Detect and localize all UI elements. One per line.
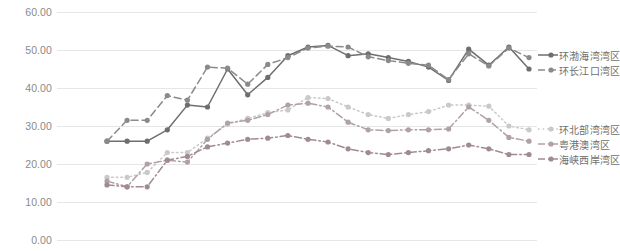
data-point xyxy=(165,158,170,163)
data-point xyxy=(205,104,210,109)
data-point xyxy=(285,55,290,60)
data-point xyxy=(526,55,531,60)
data-point xyxy=(506,152,511,157)
legend-label: 粤港澳湾区 xyxy=(559,137,610,152)
data-point xyxy=(165,93,170,98)
data-point xyxy=(125,175,130,180)
data-point xyxy=(526,127,531,132)
data-point xyxy=(125,139,130,144)
data-point xyxy=(305,101,310,106)
data-point xyxy=(185,98,190,103)
legend-marker-icon xyxy=(537,49,559,61)
data-point xyxy=(245,82,250,87)
data-point xyxy=(125,184,130,189)
data-point xyxy=(165,150,170,155)
legend-label: 环北部湾湾区 xyxy=(559,122,620,137)
data-point xyxy=(225,120,230,125)
legend-item[interactable]: 环渤海湾湾区 xyxy=(537,48,617,62)
data-point xyxy=(346,53,351,58)
y-tick-label: 60.00 xyxy=(25,6,52,18)
series-line xyxy=(107,45,529,141)
legend: 环渤海湾湾区环长江口湾区环北部湾湾区粤港澳湾区海峡西岸湾区 xyxy=(537,0,617,251)
data-point xyxy=(506,135,511,140)
legend-label: 环长江口湾区 xyxy=(559,63,620,78)
data-point xyxy=(426,63,431,68)
data-point xyxy=(165,127,170,132)
legend-item[interactable]: 环北部湾湾区 xyxy=(537,122,617,136)
data-point xyxy=(305,46,310,51)
data-point xyxy=(104,182,109,187)
data-point xyxy=(325,96,330,101)
y-tick-label: 40.00 xyxy=(25,82,52,94)
legend-group: 环渤海湾湾区环长江口湾区 xyxy=(537,48,617,78)
data-point xyxy=(386,58,391,63)
data-point xyxy=(486,146,491,151)
legend-label: 海峡西岸湾区 xyxy=(559,152,620,167)
data-point xyxy=(466,47,471,52)
data-point xyxy=(366,112,371,117)
data-point xyxy=(466,142,471,147)
data-point xyxy=(506,46,511,51)
data-point xyxy=(346,104,351,109)
legend-item[interactable]: 海峡西岸湾区 xyxy=(537,152,617,166)
data-point xyxy=(366,150,371,155)
y-tick-label: 20.00 xyxy=(25,158,52,170)
data-point xyxy=(104,139,109,144)
y-tick-label: 30.00 xyxy=(25,120,52,132)
series-4 xyxy=(104,133,531,190)
legend-marker-icon xyxy=(537,138,559,150)
y-tick-label: 50.00 xyxy=(25,44,52,56)
series-layer xyxy=(57,0,537,251)
data-point xyxy=(305,137,310,142)
data-point xyxy=(145,184,150,189)
data-point xyxy=(506,123,511,128)
data-point xyxy=(285,133,290,138)
y-tick-label: 10.00 xyxy=(25,196,52,208)
data-point xyxy=(486,118,491,123)
data-point xyxy=(526,152,531,157)
data-point xyxy=(446,103,451,108)
data-point xyxy=(205,137,210,142)
data-point xyxy=(185,103,190,108)
data-point xyxy=(265,136,270,141)
data-point xyxy=(406,61,411,66)
data-point xyxy=(466,51,471,56)
series-line xyxy=(107,103,529,187)
data-point xyxy=(225,141,230,146)
data-point xyxy=(446,77,451,82)
data-point xyxy=(145,139,150,144)
data-point xyxy=(305,95,310,100)
data-point xyxy=(426,148,431,153)
data-point xyxy=(406,127,411,132)
data-point xyxy=(205,65,210,70)
data-point xyxy=(426,127,431,132)
data-point xyxy=(245,92,250,97)
legend-item[interactable]: 粤港澳湾区 xyxy=(537,137,617,151)
data-point xyxy=(446,146,451,151)
data-point xyxy=(446,126,451,131)
legend-item[interactable]: 环长江口湾区 xyxy=(537,63,617,77)
data-point xyxy=(325,104,330,109)
data-point xyxy=(386,116,391,121)
data-point xyxy=(386,152,391,157)
data-point xyxy=(406,150,411,155)
data-point xyxy=(185,154,190,159)
data-point xyxy=(526,66,531,71)
data-point xyxy=(285,107,290,112)
plot-area xyxy=(57,0,537,251)
data-point xyxy=(366,127,371,132)
data-point xyxy=(486,104,491,109)
data-point xyxy=(265,75,270,80)
data-point xyxy=(386,128,391,133)
data-point xyxy=(225,66,230,71)
data-point xyxy=(346,120,351,125)
legend-marker-icon xyxy=(537,153,559,165)
y-axis: 0.0010.0020.0030.0040.0050.0060.00 xyxy=(0,0,52,251)
legend-marker-icon xyxy=(537,123,559,135)
data-point xyxy=(526,139,531,144)
data-point xyxy=(185,160,190,165)
legend-marker-icon xyxy=(537,64,559,76)
data-point xyxy=(265,112,270,117)
data-point xyxy=(426,109,431,114)
